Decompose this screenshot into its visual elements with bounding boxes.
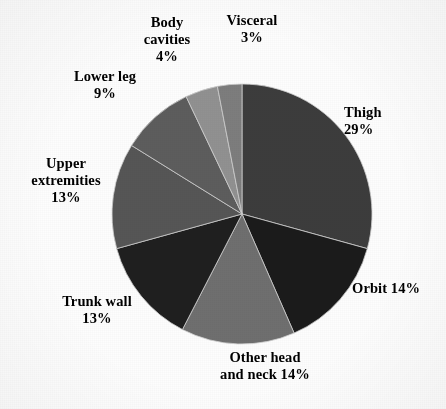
slice-label-thigh: Thigh 29%	[344, 104, 436, 138]
slice-label-visceral: Visceral 3%	[210, 12, 294, 46]
pie-chart-figure: Thigh 29%Orbit 14%Other head and neck 14…	[0, 0, 446, 409]
slice-label-other-head-and-neck: Other head and neck 14%	[190, 349, 340, 383]
slice-label-body-cavities: Body cavities 4%	[126, 14, 208, 65]
slice-label-upper-extremities: Upper extremities 13%	[8, 155, 124, 206]
slice-label-trunk-wall: Trunk wall 13%	[34, 293, 160, 327]
slice-label-lower-leg: Lower leg 9%	[50, 68, 160, 102]
slice-label-orbit: Orbit 14%	[352, 280, 446, 297]
